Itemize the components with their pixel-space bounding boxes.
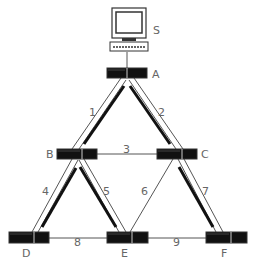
switch-F[interactable] xyxy=(206,232,247,243)
switch-label-D: D xyxy=(22,247,30,260)
switch-C[interactable] xyxy=(157,149,197,159)
switch-D[interactable] xyxy=(9,232,49,243)
switch-B[interactable] xyxy=(57,149,97,159)
server-computer-icon xyxy=(110,8,148,51)
link-label-1: 1 xyxy=(89,106,96,119)
switch-label-F: F xyxy=(221,247,227,260)
link-label-2: 2 xyxy=(158,106,165,119)
link-4 xyxy=(32,159,78,232)
switch-label-C: C xyxy=(201,148,209,161)
link-label-5: 5 xyxy=(103,185,110,198)
link-label-6: 6 xyxy=(141,185,148,198)
switch-A[interactable] xyxy=(107,68,147,78)
link-label-7: 7 xyxy=(202,185,209,198)
link-1 xyxy=(72,78,126,149)
link-2 xyxy=(129,78,183,149)
switch-label-A: A xyxy=(152,68,160,81)
server-label: S xyxy=(153,24,160,37)
switch-label-E: E xyxy=(121,247,128,260)
network-topology-diagram: 1 2 3 4 5 6 7 8 9 S A B C D xyxy=(0,0,254,268)
link-label-3: 3 xyxy=(123,143,130,156)
link-label-8: 8 xyxy=(74,236,81,249)
link-label-4: 4 xyxy=(42,185,49,198)
link-6 xyxy=(130,159,173,232)
link-label-9: 9 xyxy=(173,236,180,249)
switch-E[interactable] xyxy=(107,232,148,243)
link-7 xyxy=(178,159,223,232)
switch-label-B: B xyxy=(46,148,54,161)
